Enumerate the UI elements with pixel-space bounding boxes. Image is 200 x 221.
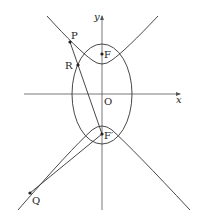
label-x-axis: x	[176, 94, 182, 105]
label-origin: O	[104, 96, 112, 107]
conic-diagram: P R Q F F′ O x y	[0, 0, 200, 221]
segment-QF-prime	[30, 134, 102, 193]
hyperbola-upper-branch	[47, 16, 158, 64]
label-R: R	[65, 60, 73, 71]
label-F: F	[104, 49, 111, 60]
label-F-prime: F′	[104, 130, 114, 141]
label-Q: Q	[32, 195, 40, 206]
point-R	[76, 63, 79, 66]
label-y-axis: y	[93, 11, 100, 22]
label-P: P	[71, 30, 78, 41]
y-axis-arrow-icon	[100, 15, 104, 20]
